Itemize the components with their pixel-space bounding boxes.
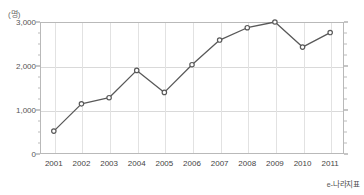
y-axis-tick-label: 2,000 — [16, 62, 36, 71]
gridline-vertical — [221, 23, 222, 153]
y-axis-tick-label: 3,000 — [16, 18, 36, 27]
y-axis-minor-tick-right — [344, 99, 347, 100]
gridlines — [41, 23, 343, 153]
chart-figure: (명) 01,0002,0003,000 2001200220032004200… — [0, 0, 364, 195]
y-axis-minor-tick — [38, 77, 40, 78]
y-axis-minor-tick-right — [344, 143, 347, 144]
y-axis-tick — [36, 22, 40, 23]
y-axis-tick-right — [344, 66, 348, 67]
gridline-horizontal — [41, 67, 343, 68]
x-axis-tick-label: 2007 — [211, 159, 229, 168]
y-axis-minor-tick — [38, 88, 40, 89]
y-axis-minor-tick-right — [344, 33, 347, 34]
y-axis-minor-tick — [38, 143, 40, 144]
plot-area — [40, 22, 344, 154]
y-axis-minor-tick — [38, 121, 40, 122]
x-axis-tick-label: 2006 — [183, 159, 201, 168]
y-axis-labels: 01,0002,0003,000 — [0, 0, 36, 195]
gridline-vertical — [138, 23, 139, 153]
y-axis-minor-tick-right — [344, 55, 347, 56]
y-axis-minor-tick-right — [344, 77, 347, 78]
gridline-vertical — [82, 23, 83, 153]
y-axis-tick-right — [344, 110, 348, 111]
y-axis-tick — [36, 110, 40, 111]
y-axis-tick-right — [344, 22, 348, 23]
gridline-vertical — [55, 23, 56, 153]
x-axis-tick-label: 2001 — [45, 159, 63, 168]
gridline-vertical — [165, 23, 166, 153]
y-axis-minor-tick-right — [344, 132, 347, 133]
y-axis-minor-tick — [38, 132, 40, 133]
x-axis-tick-label: 2002 — [73, 159, 91, 168]
gridline-vertical — [110, 23, 111, 153]
x-axis-tick-label: 2011 — [322, 159, 339, 168]
y-axis-minor-tick — [38, 55, 40, 56]
gridline-vertical — [276, 23, 277, 153]
x-axis-tick-label: 2004 — [128, 159, 146, 168]
gridline-vertical — [331, 23, 332, 153]
watermark-label: -나라지표 — [331, 180, 361, 189]
gridline-vertical — [193, 23, 194, 153]
x-axis-tick-label: 2009 — [266, 159, 284, 168]
y-axis-minor-tick-right — [344, 88, 347, 89]
y-axis-minor-tick — [38, 33, 40, 34]
y-axis-tick-label: 1,000 — [16, 106, 36, 115]
x-axis-tick-label: 2005 — [155, 159, 173, 168]
x-axis-tick-label: 2010 — [294, 159, 312, 168]
gridline-vertical — [304, 23, 305, 153]
source-watermark: e-나라지표 — [327, 178, 360, 189]
y-axis-minor-tick-right — [344, 44, 347, 45]
y-axis-minor-tick-right — [344, 121, 347, 122]
y-axis-tick — [36, 66, 40, 67]
y-axis-minor-tick — [38, 99, 40, 100]
gridline-vertical — [248, 23, 249, 153]
x-axis-tick-label: 2008 — [238, 159, 256, 168]
y-axis-tick-right — [344, 154, 348, 155]
x-axis-tick-label: 2003 — [100, 159, 118, 168]
y-axis-minor-tick — [38, 44, 40, 45]
gridline-horizontal — [41, 111, 343, 112]
y-axis-tick — [36, 154, 40, 155]
